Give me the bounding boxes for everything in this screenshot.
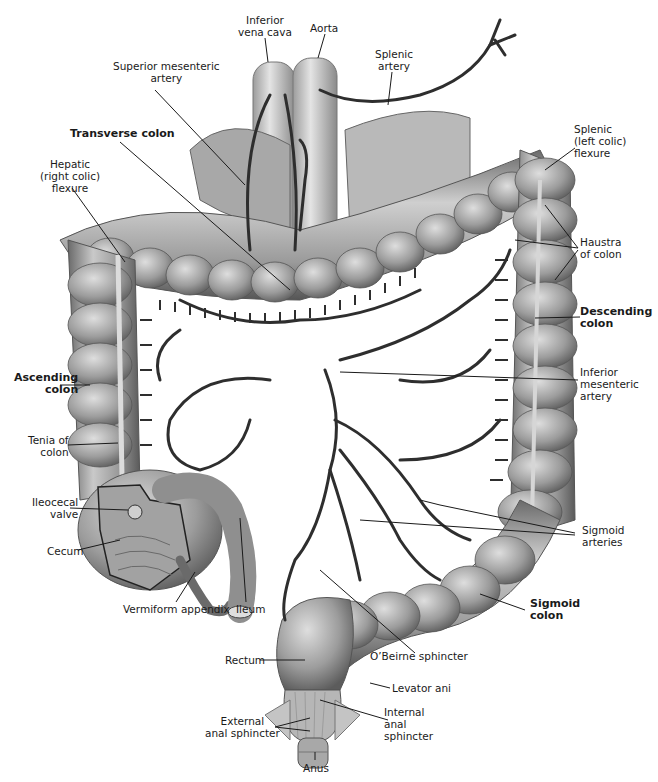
label-ileocecal-valve: Ileocecal valve [32, 496, 78, 520]
label-ileum: Ileum [236, 603, 265, 615]
label-aorta: Aorta [310, 22, 338, 34]
label-anus: Anus [303, 762, 329, 774]
label-inferior-mesenteric-artery: Inferior mesenteric artery [580, 366, 639, 402]
label-inferior-vena-cava: Inferior vena cava [238, 14, 292, 38]
label-levator-ani: Levator ani [392, 682, 451, 694]
colon-illustration [0, 0, 658, 782]
label-ascending-colon: Ascending colon [14, 372, 78, 396]
label-descending-colon: Descending colon [580, 306, 652, 330]
label-hepatic-flexure: Hepatic (right colic) flexure [40, 158, 100, 194]
label-splenic-artery: Splenic artery [375, 48, 413, 72]
label-cecum: Cecum [47, 545, 83, 557]
label-vermiform-appendix: Vermiform appendix [123, 603, 230, 615]
label-internal-anal-sphincter: Internal anal sphincter [384, 706, 433, 742]
label-haustra-of-colon: Haustra of colon [580, 236, 622, 260]
label-tenia-of-colon: Tenia of colon [28, 434, 69, 458]
label-rectum: Rectum [225, 654, 265, 666]
label-external-anal-sphincter: External anal sphincter [205, 715, 280, 739]
label-obeirne-sphincter: O’Beirne sphincter [370, 650, 468, 662]
label-sigmoid-colon: Sigmoid colon [530, 598, 580, 622]
colon-anatomy-figure: Inferior vena cava Aorta Superior mesent… [0, 0, 658, 782]
label-sigmoid-arteries: Sigmoid arteries [582, 524, 624, 548]
label-superior-mesenteric-artery: Superior mesenteric artery [113, 60, 220, 84]
label-splenic-flexure: Splenic (left colic) flexure [574, 123, 626, 159]
label-transverse-colon: Transverse colon [70, 128, 175, 140]
